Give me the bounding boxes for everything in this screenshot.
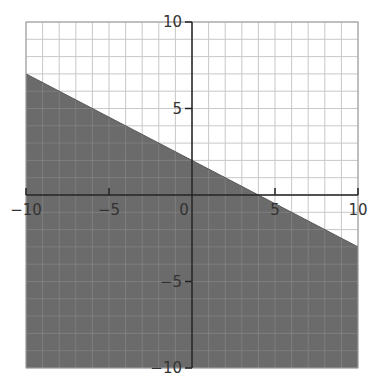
- x-tick-label: 5: [270, 201, 280, 219]
- x-tick-label: −10: [10, 201, 42, 219]
- x-tick-label: 10: [348, 201, 367, 219]
- y-tick-label: 10: [163, 13, 182, 31]
- x-tick-label: −5: [98, 201, 120, 219]
- y-tick-label: 5: [172, 100, 182, 118]
- y-tick-label: −10: [150, 359, 182, 377]
- x-tick-label: 0: [179, 201, 189, 219]
- y-tick-label: −5: [160, 273, 182, 291]
- inequality-graph: −10−50510−10−5510: [0, 0, 382, 388]
